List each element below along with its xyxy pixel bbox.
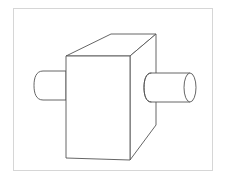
block-with-rod-diagram	[0, 0, 226, 182]
right-rod	[144, 73, 196, 102]
right-rod-end-cap	[184, 73, 196, 102]
block-front-face	[66, 56, 130, 160]
block	[66, 34, 156, 160]
left-rod	[34, 71, 66, 100]
